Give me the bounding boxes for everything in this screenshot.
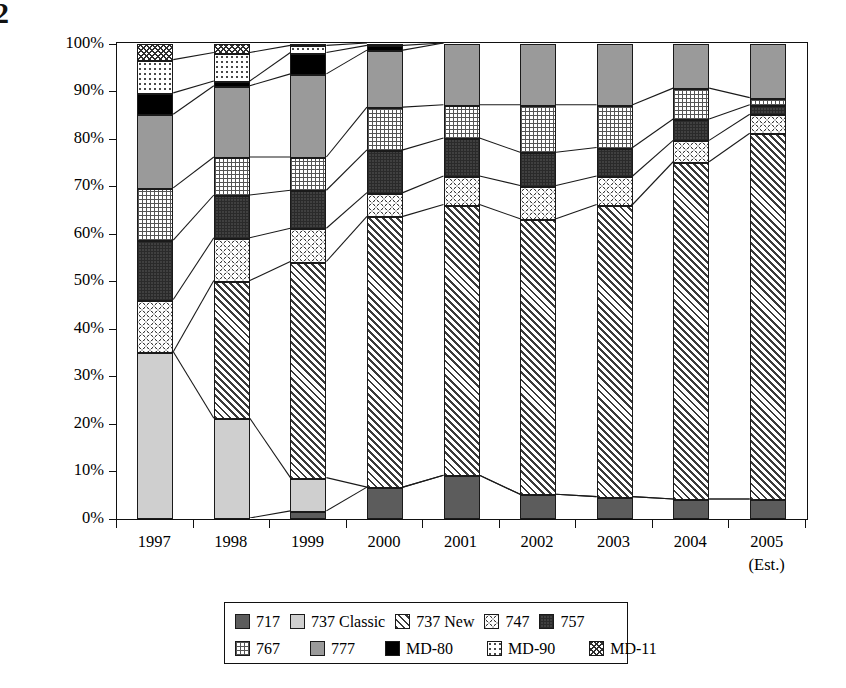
- bar-segment-757[interactable]: [290, 191, 326, 229]
- legend-item-md-11[interactable]: MD-11: [589, 641, 657, 657]
- bar-segment-717[interactable]: [520, 495, 556, 519]
- bar-segment-777[interactable]: [214, 87, 250, 158]
- legend: 717737 Classic737 New747757 767777MD-80M…: [224, 602, 628, 664]
- bar-segment-777[interactable]: [290, 75, 326, 158]
- legend-label: MD-90: [508, 641, 555, 657]
- bar-segment-767[interactable]: [673, 89, 709, 120]
- bar-segment-767[interactable]: [444, 106, 480, 139]
- bar-segment-757[interactable]: [367, 151, 403, 194]
- bar-segment-767[interactable]: [367, 108, 403, 151]
- bar-segment-767[interactable]: [290, 158, 326, 191]
- legend-swatch-icon: [235, 614, 250, 629]
- legend-item-757[interactable]: 757: [539, 614, 584, 630]
- bar-segment-717[interactable]: [367, 488, 403, 519]
- x-tick-label: 1998: [191, 532, 271, 552]
- bar-segment-md-80[interactable]: [137, 94, 173, 115]
- bar-segment-747[interactable]: [597, 177, 633, 206]
- bar-segment-747[interactable]: [137, 301, 173, 353]
- legend-label: 737 New: [416, 614, 474, 630]
- bar-segment-767[interactable]: [597, 106, 633, 149]
- bar-segment-737-new[interactable]: [290, 263, 326, 479]
- y-axis-ticks: 0%10%20%30%40%50%60%70%80%90%100%: [0, 42, 116, 520]
- bar-segment-737-new[interactable]: [750, 134, 786, 500]
- bar-segment-md-80[interactable]: [214, 82, 250, 87]
- x-tick-label: 1999: [267, 532, 347, 552]
- legend-item-md-80[interactable]: MD-80: [385, 641, 453, 657]
- bar-segment-747[interactable]: [214, 239, 250, 282]
- bar-column-2001[interactable]: [444, 44, 480, 519]
- bar-segment-757[interactable]: [214, 196, 250, 239]
- bar-segment-717[interactable]: [597, 498, 633, 519]
- bar-segment-md-11[interactable]: [290, 44, 326, 46]
- bar-segment-747[interactable]: [444, 177, 480, 206]
- bar-segment-md-11[interactable]: [137, 44, 173, 61]
- x-tick-mark: [116, 520, 117, 528]
- bar-segment-757[interactable]: [444, 139, 480, 177]
- bar-segment-777[interactable]: [597, 44, 633, 106]
- bar-segment-777[interactable]: [367, 51, 403, 108]
- bar-segment-737-new[interactable]: [367, 217, 403, 488]
- bar-segment-737-new[interactable]: [597, 206, 633, 498]
- bar-segment-747[interactable]: [673, 141, 709, 162]
- bar-segment-767[interactable]: [750, 99, 786, 106]
- bar-segment-777[interactable]: [520, 44, 556, 106]
- bar-segment-747[interactable]: [520, 187, 556, 220]
- x-tick-mark: [575, 520, 576, 528]
- bar-segment-md-90[interactable]: [367, 44, 403, 46]
- legend-item-737-classic[interactable]: 737 Classic: [290, 614, 385, 630]
- bar-column-1999[interactable]: [290, 44, 326, 519]
- bar-column-2003[interactable]: [597, 44, 633, 519]
- bar-segment-737-classic[interactable]: [214, 419, 250, 519]
- bar-segment-717[interactable]: [750, 500, 786, 519]
- bar-segment-737-new[interactable]: [673, 163, 709, 500]
- bar-segment-737-new[interactable]: [214, 282, 250, 420]
- stacked-bars: [117, 43, 807, 519]
- bar-segment-737-classic[interactable]: [290, 479, 326, 512]
- legend-item-777[interactable]: 777: [310, 641, 355, 657]
- bar-segment-717[interactable]: [673, 500, 709, 519]
- bar-segment-777[interactable]: [673, 44, 709, 89]
- bar-segment-757[interactable]: [750, 106, 786, 116]
- y-tick-label: 10%: [74, 460, 104, 480]
- bar-segment-777[interactable]: [750, 44, 786, 99]
- bar-column-2002[interactable]: [520, 44, 556, 519]
- bar-segment-767[interactable]: [214, 158, 250, 196]
- bar-segment-767[interactable]: [520, 106, 556, 154]
- bar-column-2005[interactable]: [750, 44, 786, 519]
- bar-segment-747[interactable]: [290, 229, 326, 262]
- bar-segment-757[interactable]: [137, 241, 173, 300]
- bar-segment-757[interactable]: [673, 120, 709, 141]
- bar-segment-737-new[interactable]: [520, 220, 556, 496]
- bar-segment-md-90[interactable]: [137, 61, 173, 94]
- bar-segment-md-80[interactable]: [290, 54, 326, 75]
- bar-segment-717[interactable]: [444, 476, 480, 519]
- bar-column-1998[interactable]: [214, 44, 250, 519]
- x-tick-mark: [728, 520, 729, 528]
- legend-label: MD-11: [610, 641, 657, 657]
- x-tick-mark: [269, 520, 270, 528]
- bar-segment-777[interactable]: [137, 115, 173, 189]
- bar-segment-717[interactable]: [290, 512, 326, 519]
- bar-segment-737-new[interactable]: [444, 206, 480, 477]
- legend-item-767[interactable]: 767: [235, 641, 280, 657]
- legend-item-747[interactable]: 747: [484, 614, 529, 630]
- bar-segment-757[interactable]: [520, 153, 556, 186]
- bar-segment-747[interactable]: [367, 194, 403, 218]
- bar-segment-md-80[interactable]: [367, 46, 403, 51]
- bar-segment-757[interactable]: [597, 149, 633, 178]
- legend-item-717[interactable]: 717: [235, 614, 280, 630]
- bar-column-2004[interactable]: [673, 44, 709, 519]
- bar-segment-md-11[interactable]: [214, 44, 250, 54]
- bar-column-2000[interactable]: [367, 44, 403, 519]
- bar-column-1997[interactable]: [137, 44, 173, 519]
- bar-segment-md-90[interactable]: [214, 54, 250, 83]
- bar-segment-md-90[interactable]: [290, 46, 326, 53]
- y-tick-mark: [109, 139, 116, 140]
- bar-segment-777[interactable]: [444, 44, 480, 106]
- legend-item-md-90[interactable]: MD-90: [487, 641, 555, 657]
- legend-swatch-icon: [487, 641, 502, 656]
- bar-segment-767[interactable]: [137, 189, 173, 241]
- bar-segment-747[interactable]: [750, 115, 786, 134]
- bar-segment-737-classic[interactable]: [137, 353, 173, 519]
- legend-item-737-new[interactable]: 737 New: [395, 614, 474, 630]
